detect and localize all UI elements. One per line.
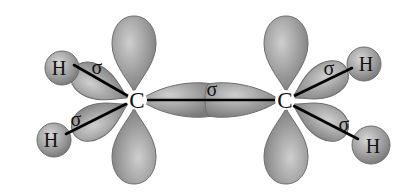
sigma-right-bottom-label: σ <box>339 113 350 135</box>
sigma-left-bottom-label: σ <box>71 108 82 130</box>
diagram-canvas: C C H H H H σ σ σ σ σ <box>0 0 412 192</box>
h-left-bottom-label: H <box>44 129 58 151</box>
h-right-top-label: H <box>359 53 373 75</box>
h-left-top-label: H <box>52 57 66 79</box>
sigma-right-top-label: σ <box>324 57 335 79</box>
carbon-right-label: C <box>277 88 292 113</box>
h-right-bottom-label: H <box>366 135 380 157</box>
ethylene-orbital-diagram: C C H H H H σ σ σ σ σ <box>0 0 412 192</box>
sigma-left-top-label: σ <box>92 56 103 78</box>
sigma-cc-label: σ <box>207 78 218 100</box>
carbon-left-label: C <box>129 88 144 113</box>
